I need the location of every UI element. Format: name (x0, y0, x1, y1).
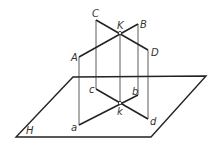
label-C: C (92, 8, 99, 19)
label-a: a (71, 122, 77, 133)
label-d: d (150, 116, 157, 127)
line-ab-proj (79, 95, 138, 125)
point-k-proj (118, 101, 121, 104)
line-ab (79, 24, 138, 57)
label-D: D (151, 47, 159, 58)
label-c: c (89, 84, 95, 95)
label-b: b (132, 86, 138, 97)
label-A: A (70, 52, 78, 63)
label-K: K (117, 20, 125, 31)
label-k: k (117, 106, 124, 117)
label-plane-h: H (26, 125, 34, 136)
plane-h (16, 76, 206, 137)
label-B: B (140, 19, 147, 30)
projector-lines (79, 20, 148, 125)
projection-diagram: C K B D A c b k d a H (0, 0, 221, 154)
point-k (118, 31, 121, 34)
